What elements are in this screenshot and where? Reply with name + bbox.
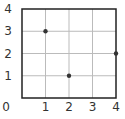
x-tick-label: 4	[112, 100, 120, 114]
y-tick-label: 3	[4, 24, 12, 38]
x-tick-label: 1	[42, 100, 50, 114]
x-axis-tick-labels: 01234	[2, 100, 120, 114]
data-point	[67, 74, 71, 78]
data-point	[43, 29, 47, 33]
y-tick-label: 1	[4, 69, 12, 83]
y-tick-label: 4	[4, 2, 12, 16]
scatter-chart: 01234 1234	[0, 0, 125, 119]
grid-lines	[22, 9, 116, 98]
y-axis-tick-labels: 1234	[4, 2, 12, 83]
x-tick-label: 0	[2, 100, 10, 114]
x-tick-label: 2	[65, 100, 73, 114]
data-point	[114, 51, 118, 55]
y-tick-label: 2	[4, 47, 12, 61]
x-tick-label: 3	[89, 100, 97, 114]
